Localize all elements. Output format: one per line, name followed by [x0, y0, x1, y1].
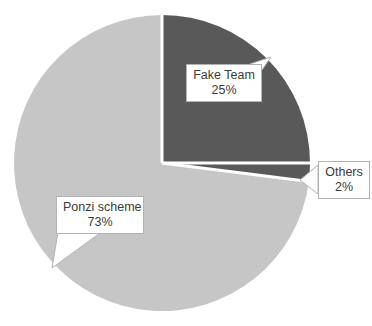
callout-others-value: 2% [325, 180, 363, 195]
callout-fake-team-value: 25% [193, 83, 255, 98]
pie-chart-canvas [0, 0, 372, 326]
callout-ponzi-scheme-label: Ponzi scheme [63, 200, 137, 215]
pie-chart: Fake Team 25% Others 2% Ponzi scheme 73% [0, 0, 372, 326]
callout-fake-team[interactable]: Fake Team 25% [186, 64, 262, 102]
callout-others-label: Others [325, 165, 363, 180]
callout-ponzi-scheme-value: 73% [63, 215, 137, 230]
callout-fake-team-label: Fake Team [193, 68, 255, 83]
callout-others[interactable]: Others 2% [318, 161, 370, 199]
callout-ponzi-scheme[interactable]: Ponzi scheme 73% [56, 196, 144, 234]
